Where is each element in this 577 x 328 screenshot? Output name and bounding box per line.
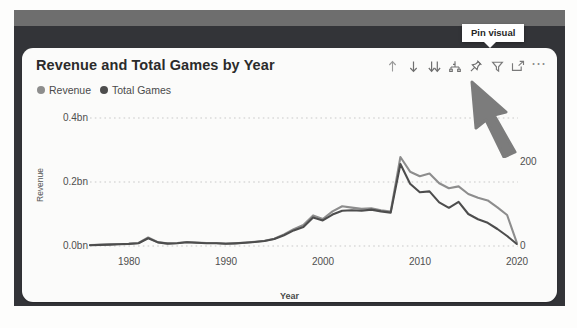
screenshot-root: Revenue and Total Games by Year Revenue …	[0, 0, 577, 328]
legend-label-total-games: Total Games	[112, 84, 171, 96]
x-axis-tick-1990: 1990	[204, 256, 248, 267]
chart-plot-area[interactable]: Revenue 0.4bn 0.2bn 0.0bn 200 0 1980 199…	[22, 106, 557, 302]
pin-visual-tooltip: Pin visual	[462, 24, 524, 42]
x-axis-tick-2010: 2010	[398, 256, 442, 267]
visual-card: Revenue and Total Games by Year Revenue …	[22, 48, 557, 302]
y-axis-tick-right-0: 200	[520, 156, 554, 167]
filter-icon[interactable]	[487, 56, 507, 76]
drill-up-icon[interactable]	[382, 56, 402, 76]
y-axis-tick-left-2: 0.0bn	[44, 240, 88, 251]
series-line-revenue	[90, 157, 517, 245]
series-line-total-games	[90, 164, 517, 245]
visual-title: Revenue and Total Games by Year	[36, 57, 275, 73]
more-options-icon[interactable]: ⋯	[529, 56, 549, 76]
legend-swatch-total-games	[100, 86, 108, 94]
drill-hierarchy-icon[interactable]	[445, 56, 465, 76]
chart-legend: Revenue Total Games	[37, 84, 171, 96]
y-axis-tick-left-1: 0.2bn	[44, 176, 88, 187]
more-options-glyph: ⋯	[531, 59, 547, 73]
y-axis-tick-right-1: 0	[520, 240, 554, 251]
x-axis-tick-2020: 2020	[495, 256, 539, 267]
x-axis-tick-2000: 2000	[301, 256, 345, 267]
legend-label-revenue: Revenue	[49, 84, 91, 96]
legend-swatch-revenue	[37, 86, 45, 94]
chart-svg	[22, 106, 557, 302]
x-axis-title: Year	[22, 291, 557, 301]
legend-item-revenue[interactable]: Revenue	[37, 84, 91, 96]
visual-header-toolbar: ⋯	[382, 56, 549, 76]
drill-down-icon[interactable]	[403, 56, 423, 76]
focus-mode-icon[interactable]	[508, 56, 528, 76]
x-axis-tick-1980: 1980	[107, 256, 151, 267]
legend-item-total-games[interactable]: Total Games	[100, 84, 171, 96]
y-axis-tick-left-0: 0.4bn	[44, 112, 88, 123]
expand-all-icon[interactable]	[424, 56, 444, 76]
pin-icon[interactable]	[466, 56, 486, 76]
